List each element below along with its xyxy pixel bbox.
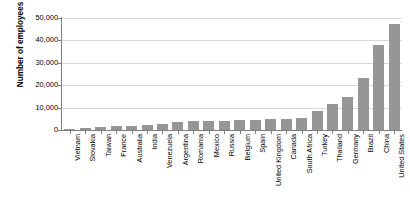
- x-axis-tick-label: Venezuela: [165, 134, 174, 214]
- bar: [312, 111, 323, 130]
- y-axis-tick-label: 20,000: [12, 81, 58, 88]
- x-axis-tick-label: Mexico: [212, 134, 221, 214]
- y-axis-tick-mark: [58, 63, 62, 64]
- bar: [203, 121, 214, 130]
- x-axis-tick-label: Canada: [289, 134, 298, 214]
- bar: [157, 124, 168, 130]
- x-axis-tick-label: Spain: [258, 134, 267, 214]
- x-axis-tick-label: Russia: [227, 134, 236, 214]
- y-axis-tick-label: 40,000: [12, 36, 58, 43]
- x-axis-tick-label: Taiwan: [104, 134, 113, 214]
- bar: [358, 78, 369, 130]
- bar: [172, 122, 183, 130]
- x-axis-tick-label: Romania: [196, 134, 205, 214]
- x-axis-tick-label: China: [382, 134, 391, 214]
- y-axis-tick-labels: 50,00040,00030,00020,00010,0000: [8, 0, 58, 217]
- bar: [327, 104, 338, 130]
- x-axis-tick-label: South Africa: [305, 134, 314, 214]
- bar: [342, 97, 353, 130]
- bar: [234, 120, 245, 130]
- bar: [126, 126, 137, 130]
- bar: [111, 126, 122, 130]
- x-axis-tick-label: Germany: [351, 134, 360, 214]
- x-axis-tick-label: Vietnam: [73, 134, 82, 214]
- x-axis-tick-label: Australia: [135, 134, 144, 214]
- bar-chart: Number of employees 50,00040,00030,00020…: [0, 0, 410, 217]
- bar: [389, 24, 400, 130]
- bar: [95, 127, 106, 130]
- x-axis-tick-label: Argentina: [181, 134, 190, 214]
- x-axis-tick-label: Thailand: [335, 134, 344, 214]
- bar: [265, 119, 276, 130]
- bar: [281, 119, 292, 130]
- y-axis-tick-mark: [58, 40, 62, 41]
- y-axis-tick-label: 10,000: [12, 104, 58, 111]
- y-axis-tick-mark: [58, 85, 62, 86]
- y-axis-tick-label: 30,000: [12, 59, 58, 66]
- y-axis-tick-mark: [58, 130, 62, 131]
- x-axis-tick-label: United States: [397, 134, 406, 214]
- x-axis-tick-label: Belgium: [243, 134, 252, 214]
- y-axis-tick-label: 0: [12, 126, 58, 133]
- x-axis-tick-label: United Kingdom: [274, 134, 283, 214]
- bar: [296, 118, 307, 130]
- x-axis-tick-label: Slovakia: [88, 134, 97, 214]
- bar: [219, 121, 230, 130]
- bar: [80, 128, 91, 130]
- bar: [64, 129, 75, 130]
- y-axis-tick-label: 50,000: [12, 14, 58, 21]
- bar: [373, 45, 384, 130]
- bar: [250, 120, 261, 130]
- bar-series: [62, 0, 402, 131]
- x-axis-tick-label: Brazil: [366, 134, 375, 214]
- bar: [188, 121, 199, 130]
- y-axis-tick-mark: [58, 108, 62, 109]
- y-axis-tick-mark: [58, 18, 62, 19]
- x-axis-tick-labels: VietnamSlovakiaTaiwanFranceAustraliaIndi…: [62, 134, 402, 217]
- bar: [142, 125, 153, 130]
- x-axis-tick-label: India: [150, 134, 159, 214]
- x-axis-tick-label: France: [119, 134, 128, 214]
- x-axis-tick-label: Turkey: [320, 134, 329, 214]
